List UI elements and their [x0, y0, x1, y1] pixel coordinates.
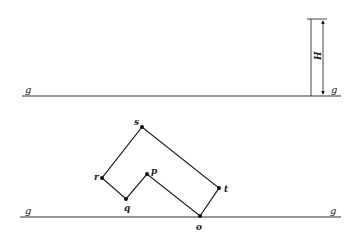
point-o — [198, 214, 202, 218]
l-shaped-polygon — [102, 127, 219, 216]
height-label: H — [313, 51, 323, 61]
point-q — [124, 197, 128, 201]
label-s: s — [134, 117, 139, 127]
diagram-canvas: g g H g g s r q p t o — [0, 0, 361, 240]
point-s — [140, 125, 144, 129]
label-q: q — [124, 203, 130, 213]
label-p: p — [151, 166, 158, 176]
label-r: r — [94, 172, 100, 182]
point-r — [100, 176, 104, 180]
point-t — [217, 186, 221, 190]
label-o: o — [196, 222, 202, 232]
label-t: t — [224, 184, 229, 194]
top-left-ground-label: g — [25, 84, 31, 95]
top-right-ground-label: g — [331, 84, 337, 95]
bottom-left-ground-label: g — [25, 205, 31, 216]
point-p — [145, 172, 149, 176]
bottom-right-ground-label: g — [330, 205, 336, 216]
